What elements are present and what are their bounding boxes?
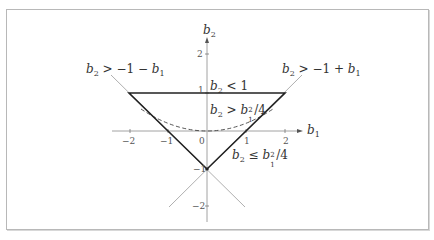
sub2: 1 (248, 117, 252, 124)
var: b (232, 148, 240, 162)
label-right-edge: b2 > −1 + b1 (282, 63, 361, 78)
relation: ≤ (245, 148, 263, 162)
b2-sub: 2 (211, 30, 216, 39)
sub2: 1 (160, 69, 165, 78)
x-tick-0: 0 (199, 137, 205, 146)
b1-var: b (307, 123, 315, 137)
b1-axis-label: b1 (307, 124, 320, 139)
var2: b (152, 62, 160, 76)
y-tick-neg2: −2 (192, 202, 205, 211)
relation: < 1 (223, 79, 248, 93)
y-tick-2: 2 (197, 50, 203, 59)
var2: b (262, 148, 270, 162)
x-tick-neg2: −2 (122, 137, 135, 146)
var: b (210, 103, 218, 117)
tail: /4 (276, 148, 288, 162)
x-tick-2: 2 (283, 137, 289, 146)
b2-var: b (203, 23, 211, 37)
sup2: 2 (270, 152, 274, 159)
x-tick-neg1: −1 (160, 137, 173, 146)
sup2: 2 (248, 107, 252, 114)
label-complex-region: b2 > b21/4 (210, 104, 266, 119)
sub2: 1 (270, 162, 274, 169)
relation: > (223, 103, 241, 117)
label-real-region: b2 ≤ b21/4 (232, 149, 288, 164)
y-tick-1: 1 (198, 86, 204, 95)
var: b (86, 62, 94, 76)
label-left-edge: b2 > −1 − b1 (86, 63, 165, 78)
b1-axis-arrow-icon (297, 129, 303, 133)
relation: > −1 − (99, 62, 152, 76)
stationarity-diagram (0, 0, 434, 240)
label-top-edge: b2 < 1 (210, 80, 248, 95)
tail: /4 (254, 103, 266, 117)
var2: b (240, 103, 248, 117)
y-tick-neg1: −1 (193, 165, 206, 174)
var: b (282, 62, 290, 76)
b1-sub: 1 (315, 130, 320, 139)
sub2: 1 (356, 69, 361, 78)
b2-axis-label: b2 (203, 24, 216, 39)
var: b (210, 79, 218, 93)
relation: > −1 + (295, 62, 348, 76)
x-tick-1: 1 (244, 137, 250, 146)
var2: b (348, 62, 356, 76)
